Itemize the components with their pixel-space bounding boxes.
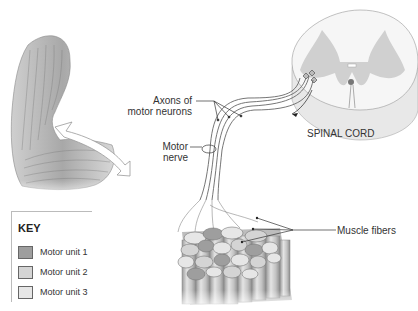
swatch-motor-unit-1 <box>18 246 33 259</box>
key-item-label: Motor unit 2 <box>40 267 88 277</box>
axons-label: Axons of motor neurons <box>110 95 192 117</box>
key-item-label: Motor unit 3 <box>40 287 88 297</box>
motor-nerve-label-line1: Motor <box>140 141 188 152</box>
axons-label-line1: Axons of <box>110 95 192 106</box>
key-item-motor-unit-1: Motor unit 1 <box>18 245 88 259</box>
motor-nerve-label-line2: nerve <box>140 152 188 163</box>
spinal-cord-cross-section <box>292 10 418 140</box>
key-item-motor-unit-2: Motor unit 2 <box>18 265 88 279</box>
key-title: KEY <box>18 222 41 234</box>
muscle-fiber-bundle <box>176 217 301 311</box>
motor-nerve-label: Motor nerve <box>140 141 188 163</box>
muscle-fibers-label: Muscle fibers <box>337 225 396 236</box>
swatch-motor-unit-3 <box>18 286 33 299</box>
swatch-motor-unit-2 <box>18 266 33 279</box>
axons-label-line2: motor neurons <box>110 106 192 117</box>
key-item-motor-unit-3: Motor unit 3 <box>18 285 88 299</box>
key-legend: KEY Motor unit 1 Motor unit 2 Motor unit… <box>11 211 92 302</box>
spinal-cord-label: SPINAL CORD <box>307 128 374 139</box>
arm-muscle-drawing <box>0 36 130 200</box>
key-item-label: Motor unit 1 <box>40 247 88 257</box>
